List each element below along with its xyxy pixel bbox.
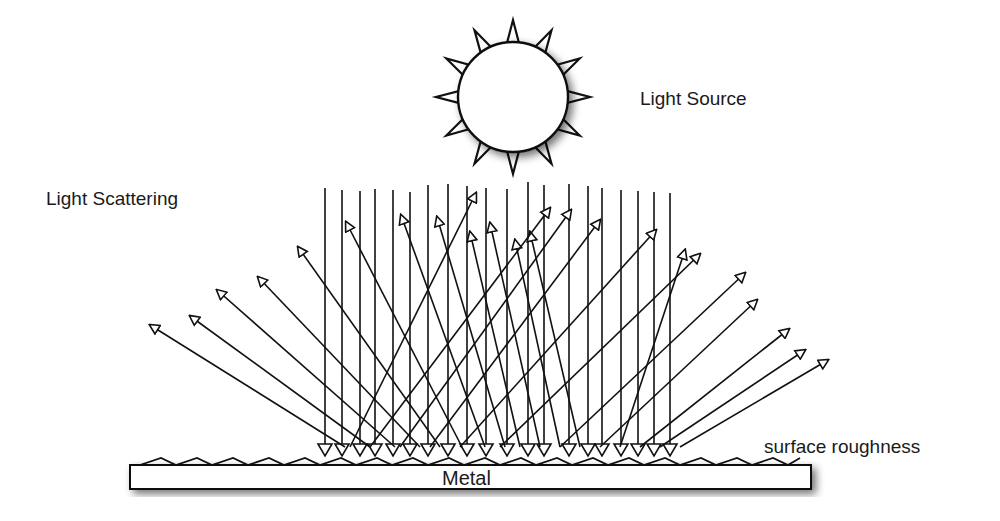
metal-label: Metal <box>442 467 491 490</box>
sun-icon <box>436 20 590 174</box>
surface-roughness <box>140 458 800 465</box>
scattered-rays <box>150 193 828 447</box>
scattering-diagram <box>0 0 1000 521</box>
incident-rays <box>318 182 677 456</box>
